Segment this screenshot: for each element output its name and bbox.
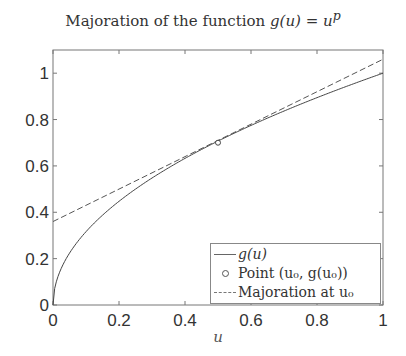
x-tick-label: 0 (48, 311, 57, 330)
x-tick-label: 0.2 (107, 311, 131, 330)
legend: g(u) Point (u₀, g(u₀)) Majoration at u₀ (210, 243, 381, 304)
y-tick-label: 0.8 (25, 111, 49, 130)
legend-item-point: Point (u₀, g(u₀)) (211, 263, 380, 282)
x-tick-label: 1 (378, 311, 387, 330)
x-tick-label: 0.8 (305, 311, 329, 330)
solid-line-icon (214, 248, 236, 260)
y-tick-label: 0.6 (25, 157, 49, 176)
legend-label: Majoration at u₀ (238, 284, 354, 300)
y-tick-label: 0.4 (25, 203, 49, 222)
x-tick-label: 0.6 (239, 311, 263, 330)
legend-item-g: g(u) (211, 244, 380, 263)
y-tick-label: 0.2 (25, 250, 49, 269)
circle-marker-icon (214, 267, 236, 279)
x-tick-label: 0.4 (173, 311, 197, 330)
legend-label: Point (u₀, g(u₀)) (238, 265, 348, 281)
dashed-line-icon (214, 286, 236, 298)
legend-item-majoration: Majoration at u₀ (211, 282, 380, 301)
point-marker (216, 140, 221, 145)
legend-label: g(u) (238, 246, 267, 262)
y-tick-label: 0 (40, 296, 49, 315)
y-tick-label: 1 (40, 64, 49, 83)
x-axis-label: u (213, 328, 223, 346)
